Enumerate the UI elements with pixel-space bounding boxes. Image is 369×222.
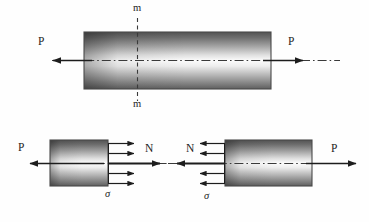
bottom-right-load-label-P: P: [331, 143, 337, 155]
diagram-vector-layer: [0, 0, 369, 222]
bottom-left-stress-label-sigma: σ: [105, 189, 110, 200]
top-left-load-label-P: P: [38, 36, 44, 48]
top-figure-group: [52, 18, 340, 101]
bottom-right-figure-group: [168, 140, 356, 186]
section-label-m-bottom: m: [133, 99, 141, 110]
top-right-load-label-P: P: [288, 36, 294, 48]
diagram-canvas: m m P P P N σ N σ P: [0, 0, 369, 222]
bottom-right-resultant-label-N: N: [186, 143, 194, 155]
bottom-left-load-label-P: P: [18, 142, 24, 154]
section-label-m-top: m: [133, 3, 141, 14]
bottom-right-stress-label-sigma: σ: [204, 191, 209, 202]
bottom-left-resultant-label-N: N: [145, 143, 153, 155]
